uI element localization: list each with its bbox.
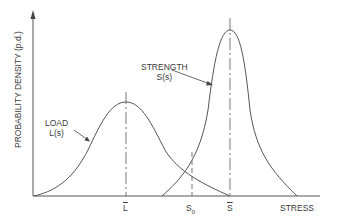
load-curve <box>34 102 230 196</box>
x-axis-label: STRESS <box>280 203 314 213</box>
load-label-func: L(s) <box>45 128 68 138</box>
tick-s0: S0 <box>186 203 195 215</box>
load-arrow-icon <box>85 137 91 142</box>
y-axis-arrow-icon <box>31 10 36 19</box>
interference-diagram <box>0 0 337 221</box>
tick-s0-sub: 0 <box>192 209 195 215</box>
strength-label-name: STRENGTH <box>141 62 188 72</box>
load-label-name: LOAD <box>45 118 68 128</box>
tick-mean-load: L <box>123 203 128 213</box>
load-label: LOAD L(s) <box>45 118 68 138</box>
y-axis-label: PROBABILITY DENSITY (p.d.) <box>13 31 23 148</box>
strength-label: STRENGTH S(s) <box>141 62 188 82</box>
tick-mean-strength: S <box>227 203 233 213</box>
strength-curve <box>162 30 297 196</box>
strength-label-func: S(s) <box>141 72 188 82</box>
